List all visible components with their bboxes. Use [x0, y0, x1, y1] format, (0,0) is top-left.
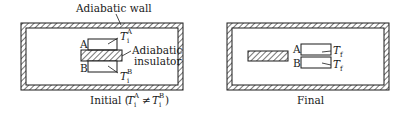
svg-text:i: i	[159, 101, 162, 109]
block-a-final	[301, 44, 331, 55]
block-b-final	[301, 57, 331, 68]
thermal-equilibrium-diagram: Adiabatic wall A B T A i Adiabatic insul…	[0, 0, 407, 114]
block-b-label-final: B	[293, 57, 301, 69]
insulator-label-line2: insulator	[134, 55, 182, 67]
svg-text:Initial (: Initial (	[90, 94, 129, 106]
initial-panel: Adiabatic wall A B T A i Adiabatic insul…	[21, 2, 183, 109]
svg-text:A: A	[133, 92, 140, 100]
final-caption: Final	[297, 94, 325, 106]
adiabatic-insulator-final	[248, 51, 288, 61]
block-b-initial	[88, 61, 117, 72]
svg-text:≠: ≠	[142, 94, 151, 106]
initial-caption: Initial ( T A i ≠ T B i )	[90, 92, 169, 109]
svg-text:B: B	[159, 92, 164, 100]
svg-text:A: A	[126, 28, 133, 36]
svg-text:i: i	[134, 101, 137, 109]
block-a-initial	[88, 39, 117, 50]
adiabatic-insulator-initial	[81, 50, 122, 61]
svg-text:): )	[165, 94, 169, 106]
block-b-label-initial: B	[80, 62, 88, 74]
final-panel: A B T f T f Final	[227, 23, 389, 106]
block-a-label-initial: A	[79, 38, 88, 50]
svg-text:B: B	[127, 68, 132, 76]
adiabatic-wall-label: Adiabatic wall	[75, 2, 152, 14]
block-a-label-final: A	[292, 43, 301, 55]
